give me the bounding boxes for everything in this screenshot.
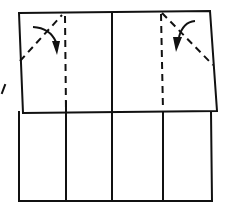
vertical-fold-line-left [65,16,66,110]
side-tick-mark [2,85,5,93]
arrowhead-left-icon [52,41,60,55]
top-flap [19,11,217,113]
base-sheet [19,102,212,201]
fold-arrow-right [173,21,195,52]
diagonal-fold-line-left [20,15,62,61]
base-outline [19,112,212,201]
flap-outline [19,11,217,113]
diagram-canvas [0,0,227,215]
arrow-curve-right [179,21,195,37]
vertical-fold-line-right [161,14,163,110]
arrowhead-right-icon [173,37,182,52]
diagonal-fold-line-right [162,13,213,65]
